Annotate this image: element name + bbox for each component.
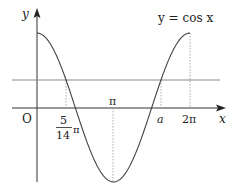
pi-label: π [109,95,116,108]
fraction-denominator: 14 [56,129,70,142]
fraction-pi: π [73,124,80,135]
fraction-numerator: 5 [60,114,67,127]
a-label: a [157,113,164,126]
cosine-diagram: y x O π a 2π 5 14 π y = cos x [0,0,234,185]
two-pi-label: 2π [182,113,196,126]
y-axis-label: y [21,7,29,21]
x-axis-label: x [219,112,226,126]
origin-label: O [22,112,32,126]
curve-label: y = cos x [157,11,213,25]
